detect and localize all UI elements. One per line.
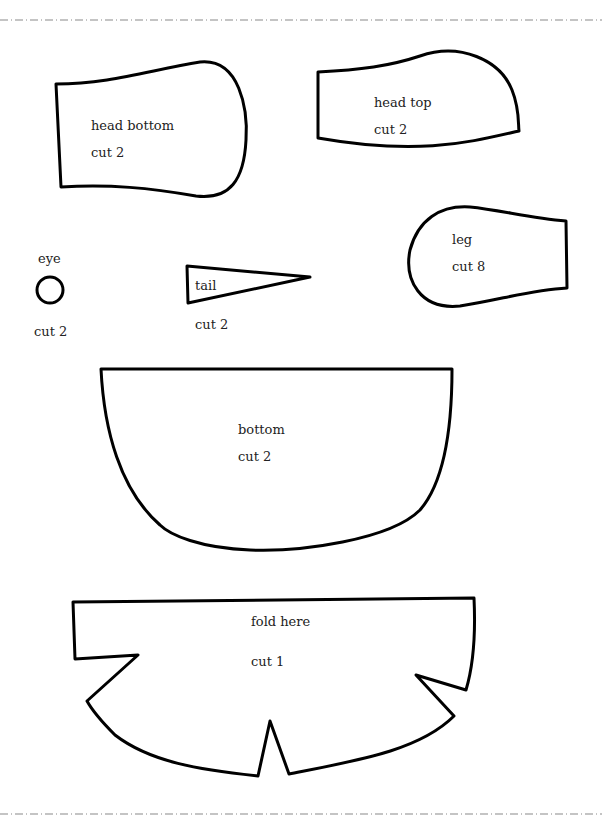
- head-bottom-cut-count: cut 2: [91, 146, 124, 159]
- leg-cut-count: cut 8: [452, 260, 485, 273]
- eye-cut-count: cut 2: [34, 325, 67, 338]
- leg-label: leg: [452, 233, 472, 246]
- head-bottom-label: head bottom: [91, 119, 174, 132]
- bottom-label: bottom: [238, 423, 285, 436]
- leg-outline: [409, 207, 567, 307]
- bottom-outline: [101, 369, 452, 550]
- tail-label: tail: [195, 279, 216, 292]
- head-top-cut-count: cut 2: [374, 123, 407, 136]
- body-fold-label: fold here: [251, 615, 310, 628]
- eye-label: eye: [38, 252, 61, 265]
- dash-dot-cut-line-bottom: [0, 813, 602, 815]
- head-top-label: head top: [374, 96, 432, 109]
- body-cut-count: cut 1: [251, 655, 284, 668]
- tail-cut-count: cut 2: [195, 318, 228, 331]
- bottom-cut-count: cut 2: [238, 450, 271, 463]
- eye-outline: [37, 277, 63, 303]
